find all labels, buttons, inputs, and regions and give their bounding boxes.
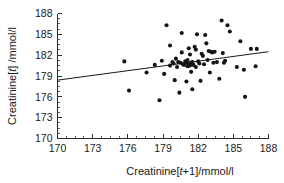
x-tick-label: 182 — [189, 142, 207, 154]
data-point — [208, 70, 212, 74]
scatter-plot-figure: 170173176179182185188 170173176179182185… — [0, 0, 284, 183]
x-tick-label: 173 — [84, 142, 102, 154]
data-point — [174, 57, 178, 61]
data-point — [221, 51, 225, 55]
data-point — [189, 70, 193, 74]
y-tick-label: 173 — [35, 111, 53, 123]
x-tick-label: 170 — [49, 142, 67, 154]
data-point — [177, 91, 181, 95]
data-point — [173, 78, 177, 82]
data-point — [201, 54, 205, 58]
data-point — [160, 59, 164, 63]
data-point — [194, 65, 198, 69]
data-point — [235, 65, 239, 69]
data-point — [249, 47, 253, 51]
data-point — [190, 87, 194, 91]
data-point — [223, 59, 227, 63]
data-point — [204, 41, 208, 45]
plot-canvas: 170173176179182185188 170173176179182185… — [0, 0, 284, 183]
data-point — [184, 80, 188, 84]
data-point — [205, 58, 209, 62]
x-tick-label: 185 — [225, 142, 243, 154]
data-point — [217, 77, 221, 81]
data-point — [122, 59, 126, 63]
data-point — [157, 98, 161, 102]
data-point — [197, 61, 201, 65]
y-tick-label: 188 — [35, 7, 53, 19]
data-point — [175, 65, 179, 69]
y-tick-label: 176 — [35, 91, 53, 103]
data-point — [180, 50, 184, 54]
data-point — [188, 52, 192, 56]
data-point — [187, 46, 191, 50]
data-point — [228, 30, 232, 34]
y-axis-title: Creatinine[t] /mmol/l — [6, 27, 18, 125]
data-point — [211, 61, 215, 65]
data-point — [198, 79, 202, 83]
data-point — [195, 32, 199, 36]
data-point — [194, 48, 198, 52]
data-point — [255, 47, 259, 51]
data-point — [202, 62, 206, 66]
data-point — [243, 95, 247, 99]
data-point — [153, 63, 157, 67]
y-tick-label: 185 — [35, 28, 53, 40]
data-point — [225, 23, 229, 27]
data-point — [168, 64, 172, 68]
data-point — [127, 89, 131, 93]
x-tick-label: 188 — [260, 142, 278, 154]
data-point — [172, 61, 176, 65]
y-tick-label: 182 — [35, 49, 53, 61]
data-point — [186, 58, 190, 62]
x-axis-title: Creatinine[t+1]/mmol/l — [126, 165, 233, 177]
x-tick-label: 179 — [154, 142, 172, 154]
data-point — [254, 64, 258, 68]
data-point — [168, 43, 172, 47]
data-point — [145, 70, 149, 74]
data-point — [238, 39, 242, 43]
data-point — [215, 60, 219, 64]
data-point — [220, 18, 224, 22]
data-point — [213, 50, 217, 54]
data-point — [242, 68, 246, 72]
data-point — [180, 31, 184, 35]
data-point — [203, 33, 207, 37]
data-point — [162, 72, 166, 76]
y-tick-label: 179 — [35, 70, 53, 82]
x-tick-label: 176 — [119, 142, 137, 154]
data-point — [164, 23, 168, 27]
